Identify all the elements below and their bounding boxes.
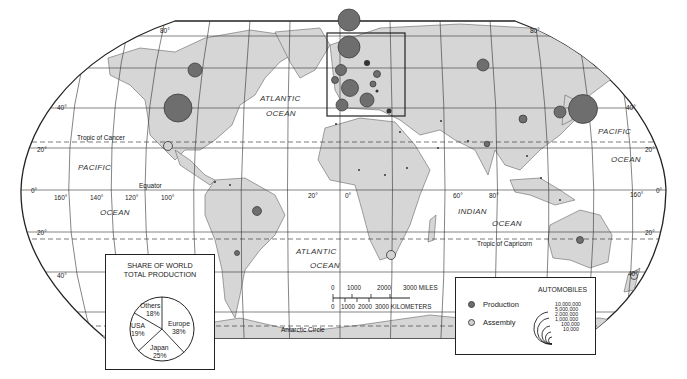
lon-100w: 100°: [161, 194, 175, 201]
belgium-production: [332, 77, 339, 84]
share-title-line1: SHARE OF WORLD: [106, 261, 214, 270]
scale-miles-3000: 3000 MILES: [403, 284, 438, 291]
legend-assembly: Assembly: [468, 318, 516, 327]
antarctic-circle-label: Antarctic Circle: [281, 326, 325, 333]
russia-production: [477, 59, 489, 71]
china-production: [519, 115, 527, 123]
australia-production: [577, 237, 584, 244]
legend-box: AUTOMOBILES Production Assembly 10,000,0…: [455, 277, 596, 355]
lon-0: 0°: [345, 192, 352, 199]
assembly-dot-icon: [468, 319, 475, 326]
czech-production: [374, 71, 381, 78]
atlantic-north-label: ATLANTIC: [259, 94, 300, 103]
germany-production-main: [338, 36, 360, 58]
pacific-west-label-2: OCEAN: [100, 208, 130, 217]
lat-40n-left: 40°: [57, 104, 67, 111]
spain-production: [336, 99, 348, 111]
atlantic-south-label-2: OCEAN: [310, 261, 340, 270]
share-pie-chart: Europe 38% Japan 25% USA 19% Others 18%: [126, 293, 198, 365]
pie-label-japan: Japan: [150, 344, 169, 352]
usa-production: [164, 94, 192, 122]
lon-160w: 160°: [54, 194, 68, 201]
share-of-world-box: SHARE OF WORLD TOTAL PRODUCTION Europe 3…: [105, 254, 215, 370]
lat-40s-left: 40°: [57, 272, 67, 279]
uk-production: [336, 65, 347, 76]
france-production: [342, 80, 359, 97]
lon-140w: 140°: [90, 194, 104, 201]
lat-0-left: 0°: [31, 187, 38, 194]
mexico-assembly: [164, 142, 173, 151]
lon-160e: 160°: [630, 191, 644, 198]
pacific-east-label-2: OCEAN: [611, 155, 641, 164]
scale-km-2000: 2000: [358, 303, 373, 310]
india-production: [484, 141, 490, 147]
atlantic-south-label: ATLANTIC: [295, 247, 336, 256]
atlantic-north-label-2: OCEAN: [266, 109, 296, 118]
canada-production: [188, 63, 202, 77]
production-dot-icon: [468, 301, 475, 308]
pie-pct-japan: 25%: [153, 352, 167, 359]
share-title: SHARE OF WORLD TOTAL PRODUCTION: [106, 261, 214, 279]
pie-pct-usa: 19%: [131, 330, 145, 337]
italy-production: [360, 93, 374, 107]
lat-40n-right: 40°: [626, 104, 636, 111]
scale-miles-0: 0: [331, 284, 335, 291]
scale-km-3000: 3000 KILOMETERS: [375, 303, 431, 310]
lat-0-right: 0°: [656, 187, 663, 194]
indian-label: INDIAN: [458, 207, 487, 216]
lon-120w: 120°: [125, 194, 139, 201]
lat-20n-left: 20°: [37, 146, 47, 153]
scale-miles-1000: 1000: [347, 284, 362, 291]
lat-80n-left: 80°: [160, 27, 170, 34]
equator-label: Equator: [139, 182, 163, 190]
japan-production: [569, 95, 598, 124]
pie-label-europe: Europe: [168, 320, 190, 328]
pie-pct-europe: 38%: [172, 328, 186, 335]
indian-label-2: OCEAN: [492, 219, 522, 228]
size-scale-values: 10,000,000 5,000,000 2,000,000 1,000,000…: [555, 302, 581, 332]
argentina-production: [235, 251, 240, 256]
lat-40s-right: 40°: [628, 270, 638, 277]
lat-20n-right: 20°: [645, 146, 655, 153]
legend-assembly-label: Assembly: [483, 318, 516, 327]
lon-20w: 20°: [308, 192, 318, 199]
share-title-line2: TOTAL PRODUCTION: [106, 270, 214, 279]
scale-km-0: 0: [331, 303, 335, 310]
korea-production: [554, 106, 566, 118]
scale-km-1000: 1000: [341, 303, 356, 310]
size-10k: 10,000: [555, 327, 581, 332]
germany-production: [338, 9, 360, 31]
pie-label-others: Others: [140, 302, 161, 309]
pie-label-usa: USA: [131, 322, 145, 329]
tropic-of-cancer-label: Tropic of Cancer: [77, 134, 126, 142]
lon-60e: 60°: [453, 192, 463, 199]
poland-production: [370, 81, 376, 87]
size-scale-icon: [532, 304, 554, 346]
scale-miles-2000: 2000: [377, 284, 392, 291]
pacific-east-label: PACIFIC: [598, 127, 631, 136]
lat-20s-right: 20°: [645, 229, 655, 236]
tropic-of-capricorn-label: Tropic of Capricorn: [477, 240, 532, 248]
south-africa-assembly: [387, 251, 396, 260]
lat-80n-right: 80°: [530, 27, 540, 34]
lat-20s-left: 20°: [37, 229, 47, 236]
legend-production: Production: [468, 300, 519, 309]
legend-title: AUTOMOBILES: [538, 286, 587, 293]
pacific-west-label: PACIFIC: [78, 163, 111, 172]
legend-production-label: Production: [483, 300, 519, 309]
lon-80e: 80°: [489, 192, 499, 199]
pie-pct-others: 18%: [146, 310, 160, 317]
brazil-production: [253, 207, 262, 216]
